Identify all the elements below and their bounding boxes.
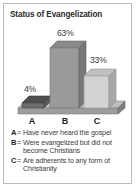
bar-C-side-face [109,69,116,108]
data-label-A: 4% [24,84,36,94]
bar-C-front-face [84,76,109,108]
axis-tick-label-C: C [89,116,105,126]
legend-separator-c: = [17,157,21,166]
legend-item-a: A = Have never heard the gospel [11,129,129,138]
data-label-B: 63% [57,28,74,38]
legend-text-c: Are adherents to any form of Christianit… [23,157,129,174]
data-label-C: 33% [90,55,107,65]
legend-key-a: A [11,129,16,138]
legend-text-b: Were evangelized but did not become Chri… [23,139,129,156]
legend-item-b: B = Were evangelized but did not become … [11,139,129,156]
legend-separator-b: = [17,139,21,148]
legend-item-c: C = Are adherents to any form of Christi… [11,157,129,174]
legend-key-c: C [11,157,16,166]
axis-tick-label-A: A [24,116,40,126]
chart-plot-area: 4% 63% 33% [4,22,131,125]
legend-text-a: Have never heard the gospel [23,129,129,138]
chart-title: Status of Evangelization [10,10,128,20]
chart-legend: A = Have never heard the gospel B = Were… [11,129,129,175]
axis-tick-label-B: B [57,116,73,126]
legend-separator-a: = [17,129,21,138]
legend-key-b: B [11,139,16,148]
chart-figure: Status of Evangelization [3,3,132,184]
